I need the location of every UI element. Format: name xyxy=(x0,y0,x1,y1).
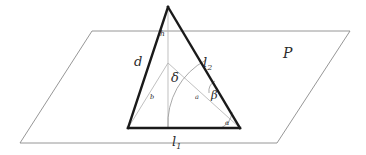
label-a: a xyxy=(195,93,199,101)
label-d: d xyxy=(134,54,142,69)
label-plane-p: P xyxy=(282,45,293,61)
label-l2-subscript: 2 xyxy=(206,63,212,72)
label-h: h xyxy=(160,29,165,38)
label-l2: l2 xyxy=(203,55,212,72)
label-alpha: α xyxy=(225,119,230,127)
construction-lines xyxy=(128,7,240,128)
label-l1-subscript: 1 xyxy=(176,142,181,151)
plane-parallelogram xyxy=(20,31,350,143)
geometry-figure: h d b a δ β α l1 l2 P xyxy=(0,0,366,155)
main-triangle xyxy=(128,7,240,128)
geometry-canvas: h d b a δ β α l1 l2 P xyxy=(0,0,366,155)
segment-b xyxy=(128,63,168,128)
label-beta: β xyxy=(210,88,218,102)
label-delta: δ xyxy=(171,70,179,85)
label-b: b xyxy=(150,93,154,101)
label-l1: l1 xyxy=(172,134,181,151)
